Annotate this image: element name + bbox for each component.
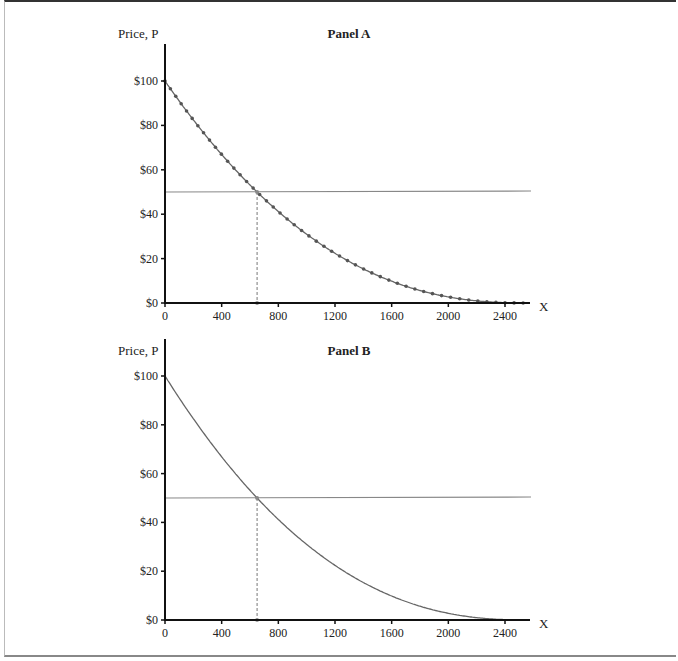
y-tick-label: $100: [134, 74, 158, 88]
curve-marker: [370, 271, 374, 275]
equilibrium-marker: [255, 190, 259, 194]
chart-canvas: Panel APrice, PX$0$20$40$60$80$100040080…: [0, 0, 678, 661]
curve-marker: [307, 234, 311, 238]
y-tick-label: $80: [140, 118, 158, 132]
curve-marker: [251, 186, 255, 190]
curve-marker: [179, 102, 183, 106]
curve-marker: [169, 87, 173, 91]
x-tick-label: 2400: [493, 626, 517, 640]
y-tick-label: $60: [140, 163, 158, 177]
x-tick-label: 2000: [436, 309, 460, 323]
curve-marker: [226, 159, 230, 163]
y-tick-label: $0: [146, 296, 158, 310]
y-axis-label: Price, P: [118, 26, 158, 41]
curve-marker: [379, 275, 383, 279]
curve-marker: [214, 145, 218, 149]
price-line: [165, 497, 531, 498]
curve-marker: [354, 263, 358, 267]
x-tick-label: 800: [269, 309, 287, 323]
x-tick-label: 0: [162, 626, 168, 640]
y-tick-label: $20: [140, 252, 158, 266]
curve-marker: [458, 297, 462, 301]
curve-marker: [265, 199, 269, 203]
curve-marker: [338, 254, 342, 258]
x-tick-label: 1600: [380, 626, 404, 640]
x-tick-label: 0: [162, 309, 168, 323]
x-tick-label: 1200: [323, 626, 347, 640]
x-axis-label: X: [539, 299, 549, 314]
price-line: [165, 191, 531, 192]
curve-marker: [285, 217, 289, 221]
x-tick-label: 400: [213, 626, 231, 640]
y-tick-label: $40: [140, 515, 158, 529]
x-tick-label: 400: [213, 309, 231, 323]
x-tick-label: 2000: [436, 626, 460, 640]
curve-marker: [208, 138, 212, 142]
curve-marker: [330, 249, 334, 253]
curve-marker: [174, 94, 178, 98]
x-tick-label: 1200: [323, 309, 347, 323]
curve-marker: [315, 239, 319, 243]
curve-marker: [422, 290, 426, 294]
y-tick-label: $80: [140, 418, 158, 432]
curve-marker: [238, 173, 242, 177]
x-axis-label: X: [539, 616, 549, 631]
x-tick-label: 800: [269, 626, 287, 640]
curve-marker: [220, 152, 224, 156]
y-tick-label: $20: [140, 564, 158, 578]
y-axis-label: Price, P: [118, 343, 158, 358]
curve-marker: [467, 298, 471, 302]
y-tick-label: $60: [140, 467, 158, 481]
curve-marker: [190, 117, 194, 121]
x-tick-label: 1600: [380, 309, 404, 323]
curve-marker: [404, 284, 408, 288]
y-tick-label: $0: [146, 613, 158, 627]
curve-marker: [300, 229, 304, 233]
x-tick-label: 2400: [493, 309, 517, 323]
panel-title: Panel A: [328, 26, 372, 41]
curve-marker: [346, 259, 350, 263]
curve-marker: [440, 294, 444, 298]
curve-marker: [292, 223, 296, 227]
curve-marker: [245, 180, 249, 184]
panel-title: Panel B: [328, 343, 371, 358]
curve-marker: [202, 131, 206, 135]
curve-marker: [431, 292, 435, 296]
curve-marker: [449, 296, 453, 300]
curve-marker: [387, 278, 391, 282]
curve-marker: [185, 109, 189, 113]
curve-marker: [413, 287, 417, 291]
chart-panel-b: Panel BPrice, PX$0$20$40$60$80$100040080…: [118, 339, 549, 640]
chart-panel-a: Panel APrice, PX$0$20$40$60$80$100040080…: [118, 26, 549, 323]
curve-marker: [396, 281, 400, 285]
y-tick-label: $100: [134, 369, 158, 383]
curve-marker: [362, 267, 366, 271]
y-tick-label: $40: [140, 207, 158, 221]
curve-marker: [278, 211, 282, 215]
curve-marker: [322, 244, 326, 248]
curve-marker: [196, 124, 200, 128]
equilibrium-marker: [255, 496, 259, 500]
curve-marker: [232, 166, 236, 170]
curve-marker: [271, 205, 275, 209]
